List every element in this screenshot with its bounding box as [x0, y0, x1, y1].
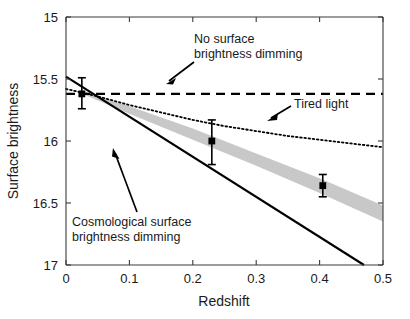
- cosmological-dimming-label-line1: Cosmological surface: [72, 215, 192, 229]
- y-tick-label: 15: [44, 10, 58, 25]
- y-axis-title: Surface brightness: [5, 83, 21, 200]
- x-tick-label: 0.3: [247, 271, 265, 286]
- surface-brightness-chart: 00.10.20.30.40.5 1515.51616.517 Redshift…: [0, 0, 410, 319]
- x-axis-title: Redshift: [198, 293, 249, 309]
- y-tick-label: 16.5: [33, 196, 58, 211]
- y-tick-label: 16: [44, 134, 58, 149]
- cosmological-dimming-label-line2: brightness dimming: [72, 230, 180, 244]
- tired-light-label-line1: Tired light: [294, 97, 349, 111]
- x-tick-label: 0.5: [374, 271, 392, 286]
- x-axis-tick-labels: 00.10.20.30.40.5: [62, 271, 392, 286]
- no-dimming-label-line1: No surface: [194, 32, 254, 46]
- y-axis-tick-labels: 1515.51616.517: [33, 10, 58, 273]
- x-tick-label: 0.4: [311, 271, 329, 286]
- x-tick-label: 0.1: [120, 271, 138, 286]
- no-dimming-label-line2: brightness dimming: [194, 47, 302, 61]
- x-tick-label: 0: [62, 271, 69, 286]
- y-tick-label: 17: [44, 258, 58, 273]
- y-tick-label: 15.5: [33, 72, 58, 87]
- x-tick-label: 0.2: [184, 271, 202, 286]
- chart-canvas: 00.10.20.30.40.5 1515.51616.517 Redshift…: [0, 0, 410, 319]
